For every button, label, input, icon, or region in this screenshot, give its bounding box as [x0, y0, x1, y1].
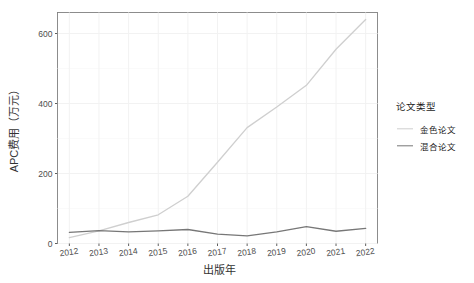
x-tick-label: 2022	[355, 246, 375, 259]
y-axis-ticks: 0200400600	[38, 29, 57, 249]
x-tick-label: 2021	[326, 246, 346, 259]
x-tick-label: 2013	[88, 246, 108, 259]
x-tick-label: 2019	[266, 246, 286, 259]
legend-line-swatch	[396, 140, 414, 151]
x-tick-label: 2015	[148, 246, 168, 259]
y-tick-label: 200	[38, 169, 52, 179]
x-axis-ticks: 2012201320142015201620172018201920202021…	[59, 244, 376, 259]
legend-item[interactable]: 混合论文	[396, 138, 472, 153]
y-tick-label: 600	[38, 29, 52, 39]
y-tick-label: 0	[48, 239, 53, 249]
y-tick-label: 400	[38, 99, 52, 109]
x-axis-title: 出版年	[57, 261, 382, 277]
legend-item[interactable]: 金色论文	[396, 121, 472, 136]
legend-item-label: 混合论文	[420, 140, 456, 152]
x-tick-label: 2017	[207, 246, 227, 259]
x-tick-label: 2016	[177, 246, 197, 259]
x-tick-label: 2020	[296, 246, 316, 259]
x-tick-label: 2014	[118, 246, 138, 259]
legend-entries: 金色论文混合论文	[396, 121, 472, 153]
legend: 论文类型 金色论文混合论文	[396, 99, 472, 155]
legend-item-label: 金色论文	[420, 123, 456, 135]
chart-container: 0200400600 20122013201420152016201720182…	[0, 0, 474, 283]
x-tick-label: 2018	[237, 246, 257, 259]
legend-line-swatch	[396, 123, 414, 134]
legend-title: 论文类型	[396, 99, 472, 113]
x-tick-label: 2012	[59, 246, 79, 259]
